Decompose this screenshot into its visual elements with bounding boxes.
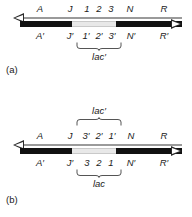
gene-label-a-top-6: R [161, 2, 168, 15]
gene-label-b-bot-2: 3 [84, 156, 89, 169]
panel-b-lac-gap [72, 148, 116, 154]
gene-label-b-bot-0: A′ [36, 156, 44, 169]
gene-label-a-top-0: A [37, 2, 43, 15]
right-arrowhead-icon-a [171, 19, 182, 29]
gene-label-a-bot-4: 3′ [108, 29, 115, 42]
panel-a-lac-gap [72, 21, 116, 27]
panel-b-top-strand [20, 144, 182, 146]
gene-label-b-bot-1: J′ [67, 156, 74, 169]
gene-label-a-bot-3: 2′ [95, 29, 102, 42]
gene-label-a-bot-0: A′ [36, 29, 44, 42]
panel-a-top-strand [20, 17, 182, 19]
panel-b-top-labels: A J 3′ 2′ 1′ N R [0, 129, 192, 142]
brace-label-a: lac′ [92, 51, 106, 62]
panel-a-bottom-labels: A′ J′ 1′ 2′ 3′ N′ R′ [0, 29, 192, 42]
panel-caption-a: (a) [6, 64, 18, 75]
gene-label-b-top-4: 1′ [108, 129, 115, 142]
gene-label-b-top-6: R [161, 129, 168, 142]
gene-label-a-top-5: N [127, 2, 134, 15]
brace-down-a [76, 42, 122, 51]
brace-up-b [76, 117, 122, 126]
gene-label-a-top-1: J [68, 2, 73, 15]
panel-b-bottom-labels: A′ J′ 3 2 1 N′ R′ [0, 156, 192, 169]
gene-label-a-bot-2: 1′ [82, 29, 89, 42]
gene-label-b-bot-3: 2 [96, 156, 101, 169]
panel-a: A J 1 2 3 N R A′ J′ 1′ 2′ 3′ N′ R′ lac′ … [0, 0, 192, 100]
gene-label-b-top-0: A [37, 129, 43, 142]
brace-down-b [76, 169, 122, 178]
gene-label-a-bot-1: J′ [67, 29, 74, 42]
gene-label-a-top-3: 2 [96, 2, 101, 15]
gene-label-b-bot-4: 1 [108, 156, 113, 169]
panel-caption-b: (b) [6, 194, 18, 205]
panel-b-bottom-strand [20, 148, 182, 154]
brace-label-b-top: lac′ [92, 105, 106, 116]
right-arrowhead-icon-b [171, 146, 182, 156]
panel-a-top-labels: A J 1 2 3 N R [0, 2, 192, 15]
gene-label-a-bot-5: N′ [127, 29, 136, 42]
gene-label-b-top-5: N [128, 129, 135, 142]
gene-label-b-bot-6: R′ [160, 156, 169, 169]
gene-label-a-bot-6: R′ [160, 29, 169, 42]
gene-label-a-top-2: 1 [84, 2, 89, 15]
panel-b: lac′ A J 3′ 2′ 1′ N R A′ J′ 3 2 1 N′ R′ [0, 100, 192, 217]
gene-label-b-bot-5: N′ [127, 156, 136, 169]
gene-label-b-top-2: 3′ [82, 129, 89, 142]
panel-a-bottom-strand [20, 21, 182, 27]
brace-label-b-bottom: lac [93, 178, 105, 189]
gene-label-b-top-1: J [68, 129, 73, 142]
gene-label-a-top-4: 3 [108, 2, 113, 15]
gene-label-b-top-3: 2′ [95, 129, 102, 142]
